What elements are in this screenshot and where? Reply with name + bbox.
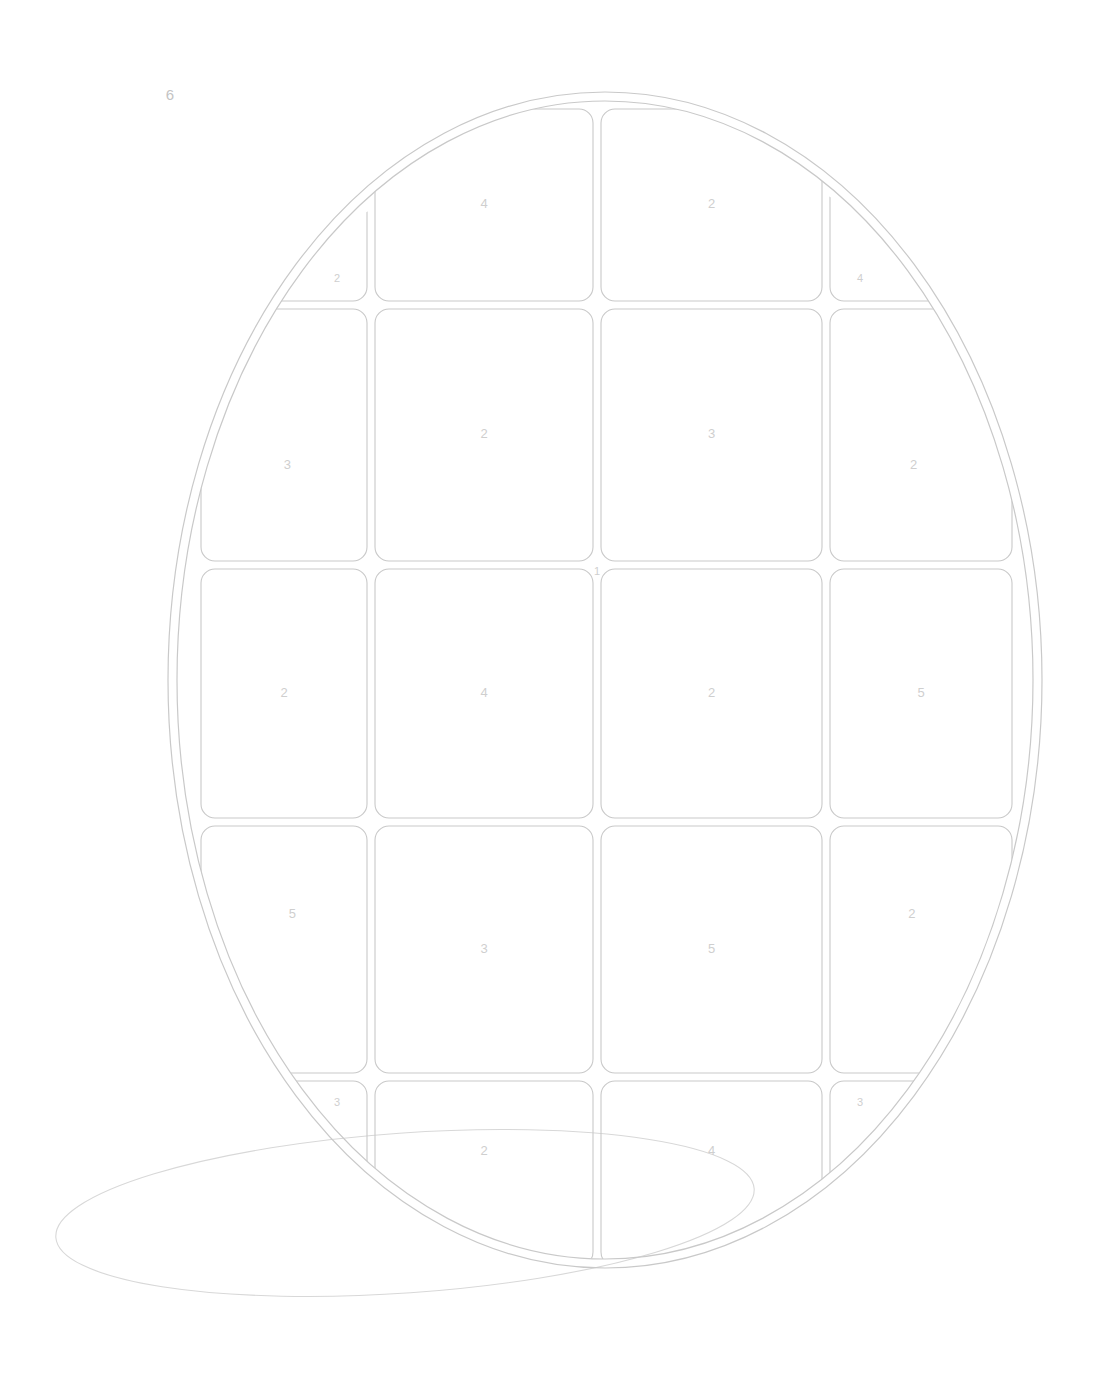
die-label: 4 [857, 272, 863, 284]
die-cell[interactable] [830, 1081, 1012, 1266]
die-label: 3 [284, 457, 291, 472]
die-cell[interactable] [201, 109, 367, 301]
die-outline [601, 1081, 822, 1266]
die-grid [201, 109, 1012, 1266]
die-label: 2 [280, 685, 287, 700]
die-label: 2 [480, 426, 487, 441]
die-outline [201, 1081, 367, 1266]
die-cell[interactable] [201, 309, 367, 561]
die-label: 4 [480, 685, 487, 700]
die-label: 2 [480, 1143, 487, 1158]
die-outline [830, 309, 1012, 561]
die-cell[interactable] [601, 1081, 822, 1266]
die-outline [375, 1081, 593, 1266]
die-label: 3 [334, 1096, 340, 1108]
die-label-layer: 24243232242553523243 [280, 196, 924, 1157]
die-label: 2 [910, 457, 917, 472]
die-label: 2 [908, 906, 915, 921]
die-outline [830, 1081, 1012, 1266]
wafer-outline [168, 92, 1042, 1268]
die-cell[interactable] [830, 826, 1012, 1073]
die-label: 5 [289, 906, 296, 921]
die-cell[interactable] [375, 1081, 593, 1266]
wafer-index-label: 6 [166, 86, 174, 103]
wafer-map-canvas: 24243232242553523243 6 1 [0, 0, 1104, 1375]
die-label: 3 [480, 941, 487, 956]
die-label: 5 [917, 685, 924, 700]
die-label: 4 [708, 1143, 715, 1158]
die-label: 5 [708, 941, 715, 956]
die-outline [201, 109, 367, 301]
die-label: 3 [857, 1096, 863, 1108]
die-label: 2 [334, 272, 340, 284]
die-cell[interactable] [830, 309, 1012, 561]
wafer-shadow [50, 1109, 759, 1317]
die-outline [201, 309, 367, 561]
die-cell[interactable] [201, 1081, 367, 1266]
die-outline [830, 826, 1012, 1073]
center-marker-label: 1 [594, 565, 600, 577]
wafer-diagram: 24243232242553523243 6 1 [0, 0, 1104, 1375]
die-label: 3 [708, 426, 715, 441]
die-label: 2 [708, 685, 715, 700]
die-label: 2 [708, 196, 715, 211]
die-label: 4 [480, 196, 487, 211]
